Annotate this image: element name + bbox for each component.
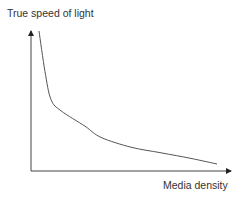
x-axis-label: Media density	[163, 180, 228, 191]
y-axis-label: True speed of light	[7, 8, 94, 19]
chart-canvas	[0, 0, 245, 202]
data-curve	[39, 31, 217, 164]
